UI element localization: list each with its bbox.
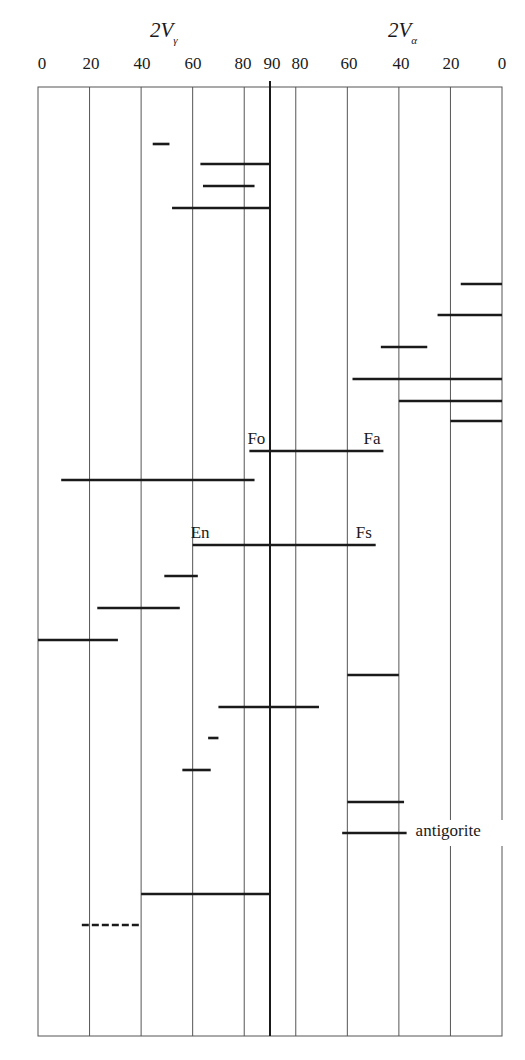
grid-lines <box>38 81 508 1036</box>
label-fs: Fs <box>356 523 372 543</box>
label-fo: Fo <box>247 429 265 449</box>
optic-angle-chart <box>0 0 525 1060</box>
label-antigorite: antigorite <box>416 821 481 841</box>
label-en: En <box>191 523 210 543</box>
label-fa: Fa <box>363 429 380 449</box>
